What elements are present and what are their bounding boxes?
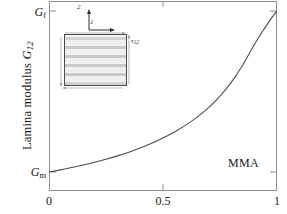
inset-layer-band [65,67,126,72]
inset-axis-1-arrowhead [110,28,115,32]
inset-dimension-arrowhead-bottom [60,83,63,87]
y-tick-label-gm: Gm [2,165,46,180]
inset-rve-box [64,34,127,86]
inset-coordinate-axes [83,6,123,34]
inset-shear-arrowhead-top [128,34,131,38]
inset-layer-band [65,49,126,54]
inset-layer-band [65,58,126,63]
inset-axis-label-2: 2 [77,3,81,11]
inset-dimension-arrowhead-left [62,87,66,90]
x-tick-label-0.5: 0.5 [143,194,183,209]
inset-axis-2-arrowhead [87,9,91,14]
inset-layer-band [65,40,126,45]
y-tick-label-group: Gf Gm [0,0,46,214]
inset-layer-band [65,82,126,85]
inset-axis-label-1: 1 [90,18,94,26]
inset-shear-stress-label: τ12 [131,37,139,45]
inset-rve-diagram: 2 1 τ12 [57,4,147,90]
y-tick-gf-variable: G [34,5,43,19]
inset-layer-band [65,76,126,81]
y-tick-label-gf: Gf [2,5,46,20]
x-tick-label-1: 1 [257,194,287,209]
chart-figure: Lamina modulus G12 Gf Gm 0 0.5 1 MMA [0,0,287,214]
inset-shear-stress-subscript: 12 [134,39,140,45]
x-tick-label-0: 0 [29,194,69,209]
curve-annotation-mma: MMA [228,156,259,171]
y-tick-gm-subscript: m [39,170,46,180]
y-tick-gf-subscript: f [43,10,46,20]
